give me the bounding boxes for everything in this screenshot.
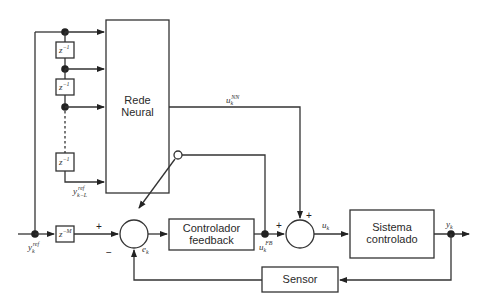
control-plus-top: + xyxy=(306,210,312,221)
control-plus-left: + xyxy=(276,220,282,231)
sensor-block: Sensor xyxy=(262,267,338,292)
u-fb-label: ukFB xyxy=(259,240,273,253)
control-summing-junction: + + xyxy=(276,210,314,248)
u-nn-label: ukNN xyxy=(226,94,240,106)
e-label: ek xyxy=(142,244,149,255)
plant-block: Sistema controlado xyxy=(350,210,434,258)
u-label: uk xyxy=(322,220,330,231)
error-plus-sign: + xyxy=(96,221,102,232)
sensor-feedback-wire xyxy=(134,250,262,280)
reference-delay-path: z−M ykref xyxy=(27,226,118,254)
tapped-delay-line: z−1 z−1 z−1 yk−Lref xyxy=(56,28,104,198)
y-label: yk xyxy=(445,219,453,230)
sensor-label: Sensor xyxy=(283,273,318,285)
controller-label-line2: feedback xyxy=(189,234,234,246)
plant-label-line2: controlado xyxy=(366,233,417,245)
nn-output-signal: ukNN xyxy=(169,94,300,218)
neural-network-label-line2: Neural xyxy=(121,106,153,118)
controller-label-line1: Controlador xyxy=(183,222,241,234)
learning-input-port xyxy=(174,151,182,159)
plant-label-line1: Sistema xyxy=(372,221,413,233)
y-ref-label: ykref xyxy=(27,241,40,254)
error-minus-sign: − xyxy=(106,247,112,258)
y-ref-delayed-label: yk−Lref xyxy=(72,185,88,198)
fb-junction-node xyxy=(261,230,269,238)
error-summing-junction: + − xyxy=(96,220,148,258)
neural-feedback-control-diagram: z−1 z−1 z−1 yk−Lref Rede Neural ukNN xyxy=(0,0,486,307)
feedback-controller-block: Controlador feedback xyxy=(169,219,254,250)
neural-network-block: Rede Neural xyxy=(106,20,169,193)
neural-network-label-line1: Rede xyxy=(124,94,150,106)
reference-input-bus xyxy=(18,32,65,238)
